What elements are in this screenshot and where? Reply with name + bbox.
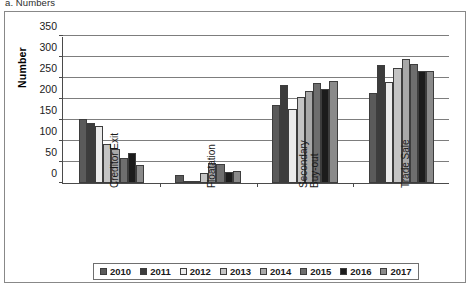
y-axis-title: Number [16, 47, 28, 88]
bars-layer [63, 37, 449, 183]
gridline [63, 35, 449, 36]
bar [225, 172, 233, 183]
y-tick-label: 50 [45, 146, 57, 157]
bar [385, 82, 393, 183]
legend-item[interactable]: 2013 [220, 267, 251, 277]
bar [377, 65, 385, 183]
bar [426, 71, 434, 183]
legend-label: 2012 [190, 267, 211, 277]
bar [87, 123, 95, 183]
bar [288, 109, 296, 183]
figure-container: a. Numbers Number 050100150200250300350 … [0, 0, 476, 289]
legend-swatch-icon [260, 268, 267, 275]
x-axis-group-separator [257, 183, 258, 187]
y-tick-label: 0 [51, 167, 57, 178]
x-axis-category-label: SecondaryBuy-out [299, 140, 320, 188]
chart-legend: 20102011201220132014201520162017 [93, 263, 419, 280]
chart-frame: Number 050100150200250300350 Creditor Ex… [4, 11, 466, 283]
figure-caption: a. Numbers [5, 0, 55, 8]
bar [369, 93, 377, 183]
bar [418, 71, 426, 183]
legend-item[interactable]: 2012 [180, 267, 211, 277]
legend-swatch-icon [220, 268, 227, 275]
legend-item[interactable]: 2014 [260, 267, 291, 277]
legend-item[interactable]: 2017 [380, 267, 411, 277]
legend-swatch-icon [340, 268, 347, 275]
bar [233, 171, 241, 183]
x-axis-category-label: Creditor Exit [110, 133, 121, 188]
legend-label: 2014 [270, 267, 291, 277]
bar [79, 119, 87, 183]
legend-swatch-icon [380, 268, 387, 275]
legend-item[interactable]: 2016 [340, 267, 371, 277]
legend-label: 2010 [110, 267, 131, 277]
legend-label: 2017 [390, 267, 411, 277]
y-tick-label: 150 [39, 104, 57, 115]
x-axis-group-separator [160, 183, 161, 187]
bar [329, 81, 337, 183]
legend-item[interactable]: 2015 [300, 267, 331, 277]
legend-item[interactable]: 2011 [140, 267, 171, 277]
x-axis-label-line: Trade Sale [400, 139, 411, 188]
bar [95, 126, 103, 183]
bar [175, 175, 183, 183]
bar [128, 153, 136, 183]
bar [120, 158, 128, 183]
legend-label: 2015 [310, 267, 331, 277]
x-axis-category-label: Floatation [207, 144, 218, 188]
x-axis-label-line: Floatation [206, 144, 217, 188]
legend-label: 2016 [350, 267, 371, 277]
y-tick-label: 350 [39, 20, 57, 31]
legend-label: 2011 [150, 267, 171, 277]
bar [184, 181, 192, 183]
y-tick-label: 300 [39, 41, 57, 52]
y-tick-label: 250 [39, 62, 57, 73]
legend-swatch-icon [100, 268, 107, 275]
y-tick-label: 200 [39, 83, 57, 94]
bar [280, 85, 288, 183]
bar [216, 164, 224, 183]
bar [192, 181, 200, 183]
y-tick-mark [59, 35, 63, 36]
x-axis-label-line: Creditor Exit [109, 133, 120, 188]
bar [136, 165, 144, 183]
legend-swatch-icon [140, 268, 147, 275]
x-axis-group-separator [353, 183, 354, 187]
legend-label: 2013 [230, 267, 251, 277]
y-tick-label: 100 [39, 125, 57, 136]
legend-swatch-icon [180, 268, 187, 275]
legend-swatch-icon [300, 268, 307, 275]
x-axis-label-line: Buy-out [309, 140, 320, 188]
legend-item[interactable]: 2010 [100, 267, 131, 277]
bar [272, 105, 280, 183]
x-axis-category-label: Trade Sale [401, 139, 412, 188]
x-axis-label-line: Secondary [298, 140, 309, 188]
bar [321, 89, 329, 184]
